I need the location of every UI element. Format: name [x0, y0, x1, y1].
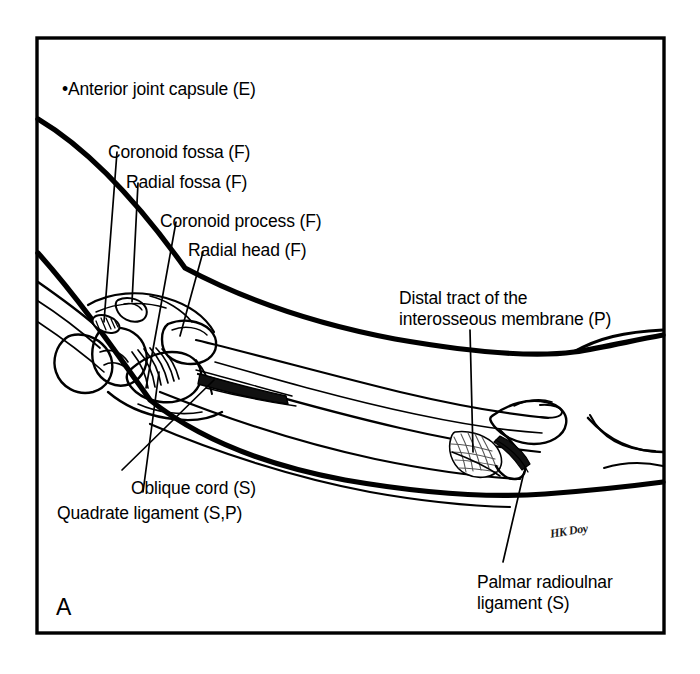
- label-distal-tract-interosseous-membrane: Distal tract of the interosseous membran…: [399, 288, 611, 330]
- label-coronoid-process: Coronoid process (F): [160, 211, 321, 232]
- label-radial-fossa: Radial fossa (F): [126, 172, 247, 193]
- label-palmar-radioulnar-ligament: Palmar radioulnar ligament (S): [477, 572, 613, 614]
- panel-letter: A: [56, 594, 71, 621]
- figure-border: [37, 38, 664, 633]
- anatomical-figure: •Anterior joint capsule (E) Coronoid fos…: [0, 0, 700, 674]
- label-radial-head: Radial head (F): [188, 240, 306, 261]
- label-oblique-cord: Oblique cord (S): [131, 478, 256, 499]
- label-quadrate-ligament: Quadrate ligament (S,P): [57, 503, 242, 524]
- label-coronoid-fossa: Coronoid fossa (F): [108, 142, 250, 163]
- label-anterior-joint-capsule: •Anterior joint capsule (E): [62, 79, 256, 100]
